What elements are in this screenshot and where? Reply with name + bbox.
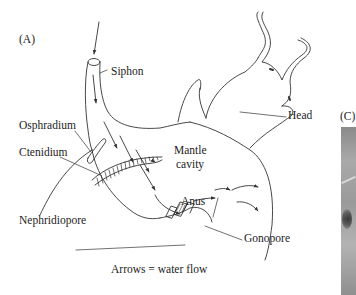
osphradium-label: Osphradium [19,120,76,132]
ctenidium-shape [92,157,162,186]
panel-a-label: (A) [19,34,35,46]
caption-arrows-water-flow: Arrows = water flow [111,264,207,276]
anus-label: Anus [181,196,205,208]
leader-lines [60,70,286,250]
shell-outline [40,79,273,260]
siphon-label: Siphon [111,66,144,78]
mantle-cavity-label-line2: cavity [176,159,204,171]
gonopore-label: Gonopore [244,233,290,245]
panel-c-label: (C) [340,111,355,123]
water-flow-arrows [93,22,258,214]
head-label: Head [288,110,312,122]
photo-streak [341,176,355,184]
nephridiopore-label: Nephridiopore [19,215,86,227]
mantle-cavity-label-line1: Mantle [174,145,207,157]
photo-dark-structure [342,209,352,229]
panel-c-photo [341,127,356,295]
head-shape [199,12,310,148]
ctenidium-label: Ctenidium [19,147,68,159]
snail-anatomy-diagram: (A) Siphon Osphradium Ctenidium Mantle c… [0,0,356,295]
